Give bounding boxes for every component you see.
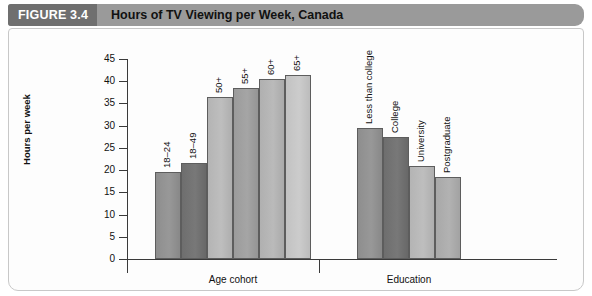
bar-label: 60+ bbox=[265, 59, 276, 75]
bar bbox=[435, 177, 461, 259]
bar-label: 18–49 bbox=[187, 133, 198, 159]
bar bbox=[181, 163, 207, 259]
bar bbox=[409, 166, 435, 259]
bar-chart: Hours per week 051015202530354045 18–241… bbox=[9, 29, 585, 292]
bar bbox=[207, 97, 233, 259]
bar bbox=[285, 75, 311, 259]
bar-label: 18–24 bbox=[161, 142, 172, 168]
bar-label: Postgraduate bbox=[441, 116, 452, 173]
bar-label: 55+ bbox=[239, 68, 250, 84]
figure-number-label: FIGURE 3.4 bbox=[8, 4, 97, 26]
group-axis-label: Education bbox=[349, 274, 469, 285]
bar bbox=[357, 128, 383, 259]
bar bbox=[259, 79, 285, 259]
bar-label: 65+ bbox=[291, 54, 302, 70]
bars-layer: 18–2418–4950+55+60+65+Less than collegeC… bbox=[9, 29, 585, 260]
bar bbox=[233, 88, 259, 259]
y-axis-stub bbox=[127, 259, 128, 273]
bar-label: 50+ bbox=[213, 77, 224, 93]
figure-title: Hours of TV Viewing per Week, Canada bbox=[97, 4, 343, 26]
figure-container: FIGURE 3.4 Hours of TV Viewing per Week,… bbox=[0, 0, 592, 296]
figure-panel: Hours per week 051015202530354045 18–241… bbox=[8, 28, 584, 291]
bar bbox=[383, 137, 409, 259]
bar bbox=[155, 172, 181, 259]
bar-label: University bbox=[415, 120, 426, 162]
bar-label: Less than college bbox=[363, 50, 374, 124]
group-separator-tick bbox=[319, 260, 320, 273]
figure-header-bar: FIGURE 3.4 Hours of TV Viewing per Week,… bbox=[8, 4, 584, 26]
bar-label: College bbox=[389, 101, 400, 133]
group-axis-label: Age cohort bbox=[173, 274, 293, 285]
